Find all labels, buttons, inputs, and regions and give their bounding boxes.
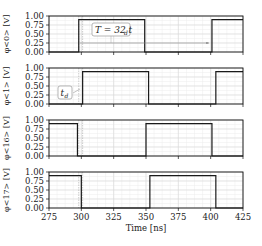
y-tick-label: 0.50 <box>25 29 44 39</box>
svg-text:d: d <box>124 29 128 36</box>
svg-text:d: d <box>65 92 69 99</box>
chart: 0.000.250.500.751.00φ<0> [V]0.000.250.50… <box>0 0 262 246</box>
y-tick-label: 0.75 <box>25 72 44 82</box>
y-tick-label: 1.00 <box>25 63 44 73</box>
x-tick-label: 325 <box>106 212 122 222</box>
subplot-3: 0.000.250.500.751.00φ<17> [V] <box>2 167 243 213</box>
y-tick-label: 0.50 <box>25 185 44 195</box>
x-tick-label: 400 <box>203 212 219 222</box>
y-tick-label: 0.75 <box>25 124 44 134</box>
subplot-2: 0.000.250.500.751.00φ<16> [V] <box>2 115 243 161</box>
y-tick-label: 1.00 <box>25 167 44 177</box>
y-tick-label: 0.00 <box>25 99 44 109</box>
y-axis-label: φ<1> [V] <box>2 67 11 106</box>
y-tick-label: 0.75 <box>25 20 44 30</box>
y-tick-label: 0.25 <box>25 142 44 152</box>
y-axis-label: φ<17> [V] <box>2 168 11 212</box>
x-axis-label: Time [ns] <box>126 223 167 233</box>
x-tick-label: 425 <box>235 212 251 222</box>
y-tick-label: 0.25 <box>25 38 44 48</box>
y-tick-label: 0.00 <box>25 47 44 57</box>
y-tick-label: 0.00 <box>25 151 44 161</box>
y-axis-label: φ<0> [V] <box>2 15 11 54</box>
subplot-1: 0.000.250.500.751.00φ<1> [V] <box>2 63 243 109</box>
y-tick-label: 1.00 <box>25 11 44 21</box>
y-tick-label: 0.50 <box>25 81 44 91</box>
x-tick-label: 350 <box>138 212 154 222</box>
x-tick-label: 275 <box>41 212 57 222</box>
signal-trace <box>49 124 243 156</box>
y-tick-label: 0.75 <box>25 176 44 186</box>
y-tick-label: 0.25 <box>25 90 44 100</box>
y-tick-label: 0.50 <box>25 133 44 143</box>
x-tick-label: 300 <box>73 212 89 222</box>
y-tick-label: 0.25 <box>25 194 44 204</box>
y-tick-label: 1.00 <box>25 115 44 125</box>
y-axis-label: φ<16> [V] <box>2 116 11 160</box>
period-annotation: T = 32 td <box>92 23 133 36</box>
x-tick-label: 375 <box>170 212 186 222</box>
delay-annotation: td <box>58 86 80 99</box>
